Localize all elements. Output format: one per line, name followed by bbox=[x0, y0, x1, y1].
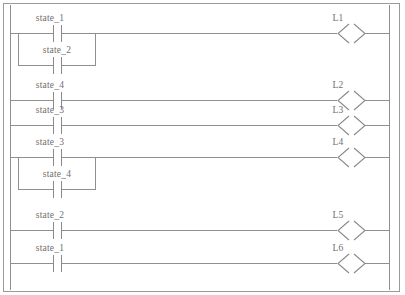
coil-left-arc-l6[interactable] bbox=[338, 254, 349, 273]
rung-4: state_3 state_4 L4 bbox=[11, 137, 390, 198]
coil-label-l1: L1 bbox=[333, 13, 344, 23]
coil-left-arc-l4[interactable] bbox=[338, 148, 349, 167]
contact-label-state-1-b: state_1 bbox=[36, 243, 64, 253]
coil-right-arc-l1[interactable] bbox=[354, 24, 365, 43]
coil-label-l4: L4 bbox=[333, 137, 344, 147]
coil-label-l3: L3 bbox=[333, 105, 344, 115]
contact-label-state-2: state_2 bbox=[43, 45, 71, 55]
coil-label-l2: L2 bbox=[333, 80, 344, 90]
contact-label-state-4-a: state_4 bbox=[36, 80, 64, 90]
contact-label-state-1: state_1 bbox=[36, 13, 64, 23]
contact-label-state-2-b: state_2 bbox=[36, 210, 64, 220]
coil-right-arc-l2[interactable] bbox=[354, 91, 365, 110]
coil-label-l5: L5 bbox=[333, 210, 344, 220]
rung-1: state_1 state_2 L1 bbox=[11, 13, 390, 74]
coil-label-l6: L6 bbox=[333, 243, 344, 253]
contact-label-state-4-b: state_4 bbox=[43, 169, 71, 179]
ladder-diagram-canvas: state_1 state_2 L1 state_4 bbox=[0, 0, 405, 295]
coil-left-arc-l5[interactable] bbox=[338, 221, 349, 240]
coil-left-arc-l1[interactable] bbox=[338, 24, 349, 43]
rung-5: state_2 L5 bbox=[11, 210, 390, 240]
rung-3: state_3 L3 bbox=[11, 105, 390, 135]
coil-right-arc-l5[interactable] bbox=[354, 221, 365, 240]
ladder-logic-diagram: state_1 state_2 L1 state_4 bbox=[0, 0, 405, 295]
coil-right-arc-l3[interactable] bbox=[354, 116, 365, 135]
contact-label-state-3-b: state_3 bbox=[36, 137, 64, 147]
contact-label-state-3-a: state_3 bbox=[36, 105, 64, 115]
coil-left-arc-l3[interactable] bbox=[338, 116, 349, 135]
coil-right-arc-l4[interactable] bbox=[354, 148, 365, 167]
rung-6: state_1 L6 bbox=[11, 243, 390, 273]
coil-right-arc-l6[interactable] bbox=[354, 254, 365, 273]
